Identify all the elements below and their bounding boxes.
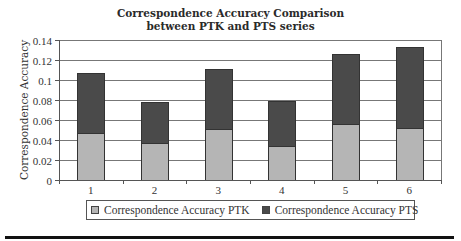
legend: Correspondence Accuracy PTK Corresponden… (86, 200, 415, 220)
bar-ptk-4 (269, 147, 296, 181)
legend-swatch-ptk (91, 206, 99, 214)
y-tick-label: 0.14 (33, 35, 53, 47)
bar-ptk-6 (397, 129, 424, 181)
legend-item-pts: Correspondence Accuracy PTS (262, 204, 419, 216)
y-tick-label: 0.1 (38, 75, 52, 87)
bottom-rule (5, 236, 454, 239)
x-tick-label: 5 (343, 184, 349, 196)
bar-pts-2 (142, 103, 169, 144)
x-tick-label: 2 (152, 184, 158, 196)
axes (55, 40, 442, 184)
y-tick-label: 0.02 (33, 155, 52, 167)
y-tick-label: 0.06 (33, 115, 53, 127)
gridlines (59, 40, 442, 180)
y-tick-label: 0.08 (33, 95, 53, 107)
y-tick-label: 0 (47, 175, 53, 187)
y-tick-label: 0.12 (33, 55, 52, 67)
bar-ptk-2 (142, 144, 169, 181)
bar-ptk-3 (206, 130, 233, 181)
x-tick-label: 3 (215, 184, 221, 196)
bar-pts-4 (269, 102, 296, 147)
x-tick-label: 6 (406, 184, 412, 196)
y-tick-label: 0.04 (33, 135, 53, 147)
bar-pts-6 (397, 48, 424, 129)
bar-ptk-1 (78, 134, 105, 181)
legend-label-pts: Correspondence Accuracy PTS (275, 204, 419, 216)
legend-item-ptk: Correspondence Accuracy PTK (91, 204, 250, 216)
bar-ptk-5 (333, 125, 360, 181)
legend-swatch-pts (262, 206, 270, 214)
x-tick-label: 4 (279, 184, 285, 196)
bar-pts-5 (333, 55, 360, 125)
bar-pts-3 (206, 70, 233, 130)
x-tick-label: 1 (88, 184, 94, 196)
bar-pts-1 (78, 74, 105, 134)
legend-label-ptk: Correspondence Accuracy PTK (104, 204, 250, 216)
